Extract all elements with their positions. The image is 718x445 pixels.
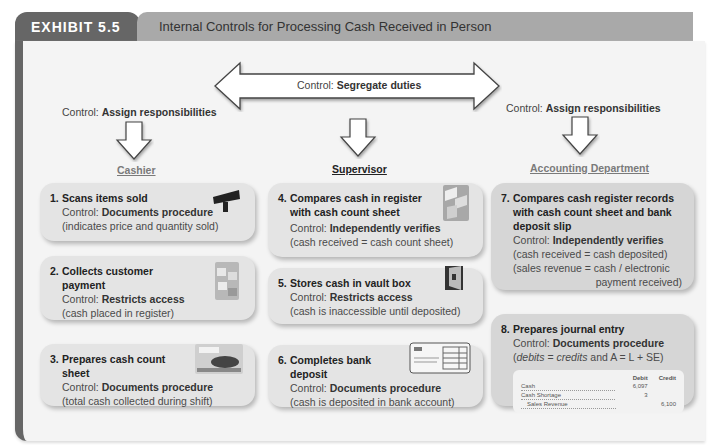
step-note: payment received): [513, 275, 688, 289]
step-card-3: 3. Prepares cash count sheet Control: Do…: [40, 344, 255, 406]
down-arrow-icon: [114, 120, 154, 162]
role-cashier: Cashier: [117, 164, 156, 176]
control-value: Documents procedure: [553, 337, 664, 349]
control-value: Segregate duties: [337, 79, 422, 91]
control-segregate-duties: Control: Segregate duties: [297, 79, 421, 91]
counting-cash-icon: [195, 344, 243, 374]
control-prefix: Control:: [290, 222, 330, 234]
step-note: (cash received = cash deposited): [513, 247, 688, 261]
step-title: Collects customer payment: [62, 264, 192, 292]
title-bar: Internal Controls for Processing Cash Re…: [137, 12, 693, 41]
credit-header: Credit: [648, 374, 676, 382]
role-supervisor: Supervisor: [332, 163, 387, 175]
control-prefix: Control:: [62, 381, 102, 393]
step-control: Control: Independently verifies: [290, 221, 473, 235]
debit-value: 6,097: [619, 382, 647, 391]
step-note: (debits = credits and A = L + SE): [513, 350, 684, 364]
step-number: 7.: [501, 191, 510, 205]
step-note: (sales revenue = cash / electronic: [513, 261, 688, 275]
account-name: Sales Revenue: [521, 400, 616, 409]
debit-header: Debit: [619, 374, 647, 382]
step-card-8: 8. Prepares journal entry Control: Docum…: [491, 314, 694, 406]
step-note: (indicates price and quantity sold): [62, 219, 245, 233]
control-value: Documents procedure: [102, 206, 213, 218]
account-name: Cash Shortage: [521, 391, 615, 400]
control-prefix: Control:: [513, 337, 553, 349]
step-control: Control: Restricts access: [290, 290, 473, 304]
debit-value: [620, 400, 648, 409]
step-card-2: 2. Collects customer payment Control: Re…: [40, 256, 255, 320]
control-value: Independently verifies: [553, 234, 664, 246]
debit-value: 3: [619, 391, 647, 400]
control-prefix: Control:: [290, 291, 330, 303]
credit-value: 6,100: [648, 400, 676, 409]
step-control: Control: Documents procedure: [513, 336, 684, 350]
step-number: 2.: [50, 264, 59, 278]
control-assign-left: Control: Assign responsibilities: [62, 106, 217, 118]
control-value: Independently verifies: [330, 222, 441, 234]
step-number: 4.: [278, 191, 287, 205]
barcode-scanner-icon: [211, 189, 241, 213]
step-note: (total cash collected during shift): [62, 394, 245, 408]
control-prefix: Control:: [513, 234, 553, 246]
control-value: Assign responsibilities: [546, 102, 661, 114]
step-card-5: 5. Stores cash in vault box Control: Res…: [268, 268, 483, 324]
step-title: Prepares cash count sheet: [62, 352, 192, 380]
account-name: Cash: [521, 382, 615, 391]
down-arrow-icon: [560, 115, 600, 157]
step-number: 8.: [501, 322, 510, 336]
step-number: 6.: [278, 353, 287, 367]
credit-value: [648, 391, 676, 400]
step-note: (cash placed in register): [62, 306, 245, 320]
control-value: Documents procedure: [330, 382, 441, 394]
step-control: Control: Documents procedure: [290, 381, 473, 395]
step-title: Completes bank deposit: [290, 353, 400, 381]
step-control: Control: Independently verifies: [513, 233, 688, 247]
control-value: Restricts access: [330, 291, 413, 303]
step-card-7: 7. Compares cash register records with c…: [491, 183, 694, 290]
step-note: (cash is inaccessible until deposited): [290, 304, 473, 318]
credit-value: [648, 382, 676, 391]
journal-row: Sales Revenue 6,100: [521, 400, 676, 409]
control-prefix: Control:: [62, 106, 102, 118]
exhibit-label: EXHIBIT 5.5: [31, 19, 121, 35]
journal-row: Cash Shortage 3: [521, 391, 676, 400]
control-prefix: Control:: [297, 79, 337, 91]
journal-entry-table: Debit Credit Cash 6,097 Cash Shortage 3 …: [513, 370, 684, 413]
note-part: =: [545, 351, 557, 363]
exhibit-tab: EXHIBIT 5.5: [15, 12, 140, 42]
step-card-4: 4. Compares cash in register with cash c…: [268, 183, 483, 257]
control-prefix: Control:: [62, 293, 102, 305]
control-prefix: Control:: [506, 102, 546, 114]
role-accounting-department: Accounting Department: [530, 162, 649, 174]
journal-row: Cash 6,097: [521, 382, 676, 391]
vault-safe-icon: [443, 264, 465, 292]
step-title: Compares cash register records with cash…: [513, 191, 688, 233]
control-prefix: Control:: [62, 206, 102, 218]
journal-header-row: Debit Credit: [521, 374, 676, 382]
exhibit-title: Internal Controls for Processing Cash Re…: [159, 19, 491, 34]
step-card-1: 1. Scans items sold Control: Documents p…: [40, 183, 255, 241]
down-arrow-icon: [338, 117, 378, 159]
control-value: Documents procedure: [102, 381, 213, 393]
step-number: 3.: [50, 352, 59, 366]
note-debits: debits: [517, 351, 545, 363]
deposit-slip-icon: [409, 342, 471, 374]
control-value: Assign responsibilities: [102, 106, 217, 118]
note-credits: credits: [557, 351, 588, 363]
step-title: Compares cash in register with cash coun…: [290, 191, 440, 219]
step-number: 1.: [50, 191, 59, 205]
step-number: 5.: [278, 276, 287, 290]
step-control: Control: Documents procedure: [62, 380, 245, 394]
cash-drawer-icon: [443, 185, 469, 221]
step-card-6: 6. Completes bank deposit Control: Docum…: [268, 345, 483, 407]
step-note: (cash is deposited in bank account): [290, 395, 473, 409]
step-note: (cash received = cash count sheet): [290, 235, 473, 249]
control-prefix: Control:: [290, 382, 330, 394]
control-assign-right: Control: Assign responsibilities: [506, 102, 661, 114]
control-value: Restricts access: [102, 293, 185, 305]
step-title: Prepares journal entry: [513, 322, 684, 336]
note-part: and A = L + SE): [587, 351, 663, 363]
cash-register-drawer-icon: [215, 262, 239, 300]
